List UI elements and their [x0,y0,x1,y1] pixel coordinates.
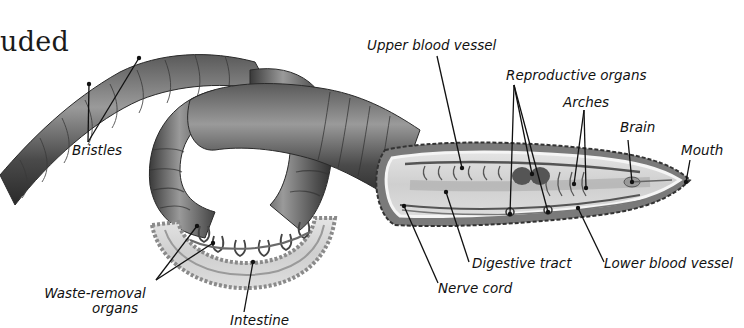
earthworm-anatomy-diagram: uded Upper blood vessel Reproductive org… [0,0,744,328]
label-waste-removal-line1: Waste-removal [35,286,155,301]
label-upper-blood-vessel: Upper blood vessel [367,38,496,53]
label-lower-blood-vessel: Lower blood vessel [604,256,733,271]
label-intestine: Intestine [230,313,289,328]
label-bristles: Bristles [72,143,122,158]
label-mouth: Mouth [681,143,723,158]
label-brain: Brain [620,120,655,135]
label-arches: Arches [563,95,609,110]
label-digestive-tract: Digestive tract [472,256,572,271]
label-nerve-cord: Nerve cord [438,281,512,296]
label-waste-removal-organs: Waste-removal organs [35,286,155,316]
label-waste-removal-line2: organs [35,301,155,316]
heading-fragment: uded [0,26,69,57]
label-reproductive-organs: Reproductive organs [506,68,646,83]
